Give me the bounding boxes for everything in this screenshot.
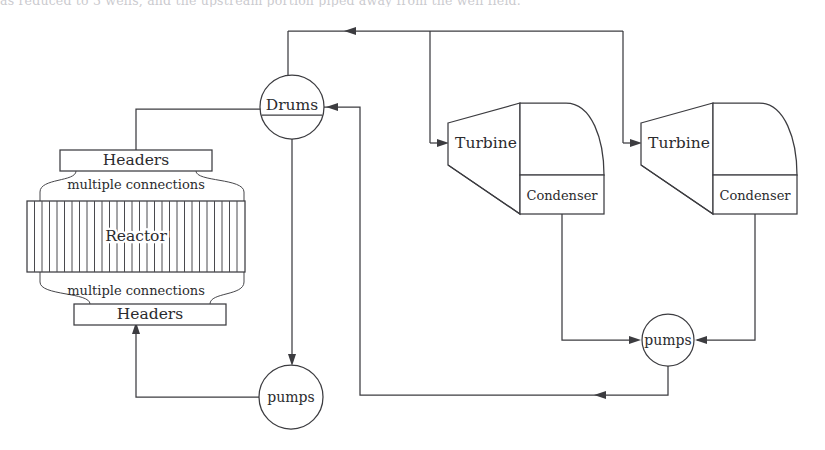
turbine-2-exhaust-hood [713, 103, 797, 175]
pumps-right-label: pumps [644, 332, 691, 348]
arrow-condenser1-to-pumps [629, 336, 641, 344]
connection-label-bottom: multiple connections [67, 283, 205, 298]
turbine-1-label: Turbine [455, 134, 517, 152]
flow-segment-condenser1-to-pumps [562, 214, 634, 340]
flow-drums-to-left-pumps [288, 139, 296, 366]
turbine-1-body [448, 103, 520, 214]
pumps-right-node: pumps [642, 314, 694, 366]
arrow-turbine1-inlet [437, 139, 449, 147]
arrow-drums-downcomer [288, 354, 296, 366]
header-bottom-label: Headers [117, 305, 183, 323]
arrow-return-bottom [594, 391, 606, 399]
arrow-turbine2-inlet [630, 139, 642, 147]
process-flow-diagram: Turbine Condenser Turbine Condenser [0, 0, 825, 450]
pumps-left-label: pumps [267, 389, 314, 405]
header-top-label: Headers [103, 151, 169, 169]
turbine-condenser-unit-2: Turbine Condenser [641, 103, 797, 214]
turbine-2-label: Turbine [648, 134, 710, 152]
connection-bracket-bottom-right [210, 272, 244, 304]
reactor-assembly: Headers Headers multiple connections mul… [27, 150, 245, 325]
flow-headers-to-drums [136, 109, 262, 150]
condenser-2-label: Condenser [719, 188, 791, 203]
arrow-return-into-drums [326, 103, 338, 111]
arrow-top-run [344, 27, 356, 35]
flow-segment-pumps-to-headers [136, 330, 259, 397]
drums-label: Drums [266, 96, 319, 114]
flow-left-pumps-to-headers [132, 322, 259, 397]
condenser-1-label: Condenser [526, 188, 598, 203]
turbine-2-body [641, 103, 713, 214]
drums-node: Drums [260, 75, 324, 139]
reactor-label: Reactor [105, 227, 167, 245]
turbine-condenser-unit-1: Turbine Condenser [448, 103, 604, 214]
connection-label-top: multiple connections [67, 177, 205, 192]
pumps-left-node: pumps [259, 365, 323, 429]
arrow-condenser2-to-pumps [695, 336, 707, 344]
flow-segment-headers-to-drums [136, 109, 262, 150]
flow-segment-condenser2-to-pumps [697, 214, 755, 340]
turbine-1-exhaust-hood [520, 103, 604, 175]
diagram-page: as reduced to 3 wells, and the upstream … [0, 0, 825, 450]
